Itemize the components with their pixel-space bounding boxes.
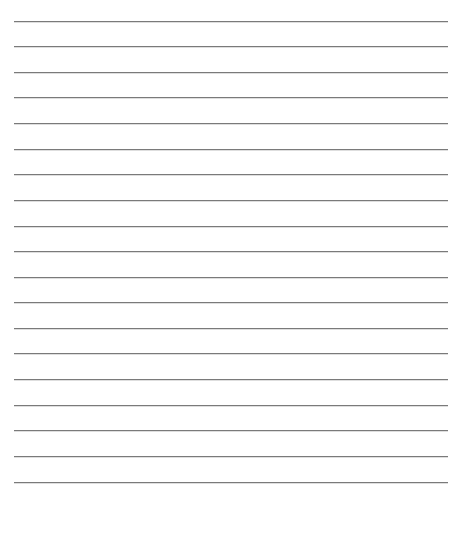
ruled-line [14, 200, 448, 201]
ruled-line [14, 405, 448, 406]
ruled-line [14, 72, 448, 73]
ruled-line [14, 302, 448, 303]
ruled-line [14, 149, 448, 150]
ruled-line [14, 251, 448, 252]
ruled-line [14, 46, 448, 47]
ruled-line [14, 21, 448, 22]
ruled-line [14, 328, 448, 329]
ruled-line [14, 353, 448, 354]
ruled-line [14, 97, 448, 98]
ruled-line [14, 430, 448, 431]
ruled-line [14, 226, 448, 227]
ruled-line [14, 456, 448, 457]
ruled-line [14, 482, 448, 483]
ruled-line [14, 379, 448, 380]
ruled-line [14, 174, 448, 175]
ruled-line [14, 277, 448, 278]
ruled-line [14, 123, 448, 124]
lined-paper-sheet [0, 0, 466, 533]
